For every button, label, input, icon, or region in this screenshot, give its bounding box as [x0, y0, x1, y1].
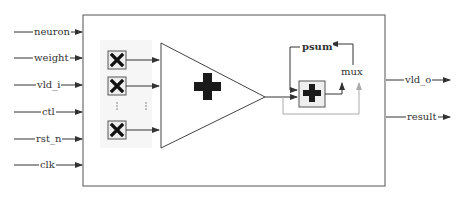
input-label-clk: clk	[39, 159, 56, 171]
input-label-ctl: ctl	[41, 106, 56, 118]
input-label-vld-i: vld_i	[36, 79, 61, 91]
accumulator-adder	[299, 81, 325, 107]
mux-to-psum-wire	[331, 44, 353, 65]
multiplier-2	[108, 77, 126, 95]
input-label-neuron: neuron	[33, 26, 71, 38]
multiplier-n	[108, 121, 126, 139]
output-label-vld-o: vld_o	[404, 74, 432, 86]
input-label-weight: weight	[33, 52, 70, 64]
multiplier-1	[108, 51, 126, 69]
diagram: neuron weight vld_i ctl rst_n clk vld_o …	[0, 0, 465, 197]
input-label-rst-n: rst_n	[35, 133, 62, 145]
adder-tree	[161, 43, 265, 148]
mux-label: mux	[340, 66, 364, 78]
output-label-result: result	[406, 111, 438, 123]
psum-label: psum	[301, 41, 333, 53]
acc-to-mux-wire	[325, 83, 342, 94]
